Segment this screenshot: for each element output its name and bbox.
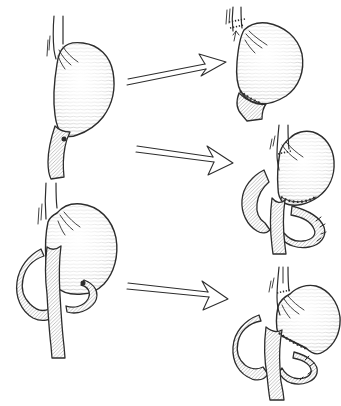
arrow-bottom [127,281,228,310]
afferent-bowel-curve [242,170,270,233]
esophagus-stitch-marks [277,290,290,293]
bowel-loop [279,352,317,384]
duodenum-tube [48,126,70,179]
arrow-middle [136,146,233,175]
ulcer-dot [62,137,67,142]
bowel-loop [282,206,325,248]
arrow-shaft-top-line [137,146,213,157]
figure-postop-stomach-top-right [226,7,303,121]
illustration-canvas: Hand-drawn surgical diagram: two pre-ope… [0,0,341,406]
arrow-head [207,146,233,175]
surgical-diagram-svg: Hand-drawn surgical diagram: two pre-ope… [0,0,341,406]
stomach-body [277,285,341,353]
figure-postop-stomach-bottom-right [233,267,340,400]
figure-postop-stomach-middle-right [242,125,334,254]
arrow-top [127,54,226,85]
arrow-head [202,281,228,310]
descending-bowel-limb [265,327,284,400]
arrow-shaft-bottom-line [136,152,214,162]
figure-preop-stomach-top-left [47,16,114,179]
figure-preop-stomach-bottom-left [17,183,117,358]
ulcer-dot [81,281,86,286]
descending-bowel-limb [271,198,287,254]
arrow-head [199,54,226,76]
duodenal-c-curve [233,315,268,380]
